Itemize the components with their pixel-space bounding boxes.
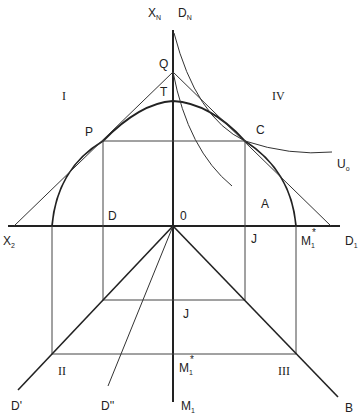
ray-b [173, 226, 338, 397]
curve-q-to-a [173, 72, 232, 186]
label-dn: DN [178, 6, 192, 21]
tangent-line-right [173, 72, 331, 226]
curve-b-label: B [345, 401, 353, 415]
point-j-axis-label: J [251, 232, 257, 246]
point-t-label: T [160, 85, 168, 99]
quadrant-iii-label: III [278, 364, 290, 378]
ray-d-double-prime [108, 226, 173, 386]
point-j-lower-label: J [183, 307, 189, 321]
point-a-label: A [261, 197, 269, 211]
tangent-line-left [14, 72, 173, 226]
label-m1: M1 [181, 399, 195, 414]
point-origin-label: 0 [180, 209, 187, 223]
curve-d-double-prime-label: D'' [101, 399, 114, 413]
point-m1star-lower-label: M1* [179, 354, 194, 376]
label-d1: D1 [345, 234, 358, 249]
economic-diagram: XN DN M1 X2 D1 I II III IV Q T P C A D 0… [0, 0, 360, 416]
quadrant-i-label: I [62, 89, 66, 103]
label-xn: XN [148, 6, 161, 21]
point-d-label: D [108, 209, 117, 223]
point-c-label: C [256, 123, 265, 137]
quadrant-ii-label: II [58, 364, 66, 378]
label-x2: X2 [3, 234, 15, 249]
point-q-label: Q [159, 57, 168, 71]
ray-d-prime [18, 226, 173, 390]
point-m1star-axis-label: M1* [301, 227, 316, 249]
curve-u0-label: Uo [337, 157, 350, 172]
point-p-label: P [85, 125, 93, 139]
quadrant-iv-label: IV [272, 89, 285, 103]
indifference-curve-u0 [174, 33, 332, 153]
curve-d-prime-label: D' [11, 399, 22, 413]
